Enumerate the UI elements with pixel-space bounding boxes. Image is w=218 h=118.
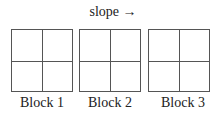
grid-divider-horizontal — [12, 61, 72, 62]
block-2-grid — [79, 29, 141, 92]
block-3-label: Block 3 — [148, 95, 218, 111]
block-1-label: Block 1 — [7, 95, 77, 111]
slope-direction-label: slope → — [0, 4, 218, 20]
grid-divider-horizontal — [80, 61, 140, 62]
block-1-grid — [11, 29, 73, 92]
block-3-grid — [148, 29, 210, 92]
grid-divider-horizontal — [149, 61, 209, 62]
block-2-label: Block 2 — [75, 95, 145, 111]
